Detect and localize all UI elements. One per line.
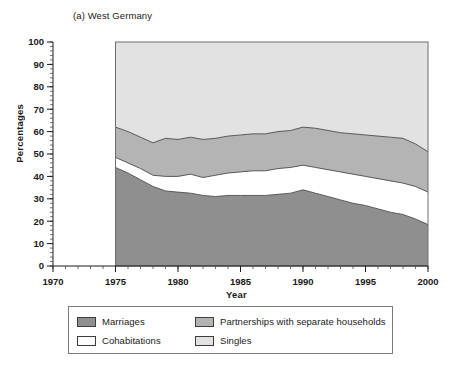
legend-swatch-icon [195, 317, 214, 327]
legend-item-label: Partnerships with separate households [220, 316, 386, 327]
y-tick-label: 60 [33, 126, 44, 137]
legend-item[interactable]: Singles [195, 335, 388, 346]
legend-item-label: Cohabitations [102, 335, 161, 346]
legend-swatch-icon [195, 336, 214, 346]
y-tick-label: 70 [33, 104, 44, 115]
x-axis-label: Year [0, 289, 459, 300]
y-tick-label: 100 [28, 36, 44, 47]
legend-grid: MarriagesPartnerships with separate hous… [77, 312, 388, 350]
stacked-areas [116, 42, 429, 266]
legend-item-label: Singles [220, 335, 252, 346]
x-tick-label: 2000 [417, 276, 438, 287]
y-axis: 0102030405060708090100 [28, 36, 53, 271]
y-tick-label: 50 [33, 148, 44, 159]
legend: MarriagesPartnerships with separate hous… [68, 306, 393, 354]
legend-item-label: Marriages [102, 316, 145, 327]
y-tick-label: 40 [33, 171, 44, 182]
x-axis: 1970197519801985199019952000 [42, 266, 438, 287]
x-tick-label: 1995 [355, 276, 377, 287]
y-tick-label: 0 [39, 260, 44, 271]
y-tick-label: 10 [33, 238, 44, 249]
x-tick-label: 1985 [230, 276, 252, 287]
y-tick-label: 90 [33, 59, 44, 70]
legend-item[interactable]: Marriages [77, 316, 195, 327]
x-tick-label: 1970 [42, 276, 63, 287]
y-tick-label: 30 [33, 193, 44, 204]
legend-item[interactable]: Partnerships with separate households [195, 316, 388, 327]
legend-swatch-icon [77, 317, 96, 327]
x-tick-label: 1980 [167, 276, 188, 287]
legend-swatch-icon [77, 336, 96, 346]
y-tick-label: 80 [33, 81, 44, 92]
legend-item[interactable]: Cohabitations [77, 335, 195, 346]
x-tick-label: 1975 [105, 276, 127, 287]
y-tick-label: 20 [33, 216, 44, 227]
chart-figure: (a) West Germany Percentages 19701975198… [0, 0, 459, 370]
x-tick-label: 1990 [292, 276, 313, 287]
